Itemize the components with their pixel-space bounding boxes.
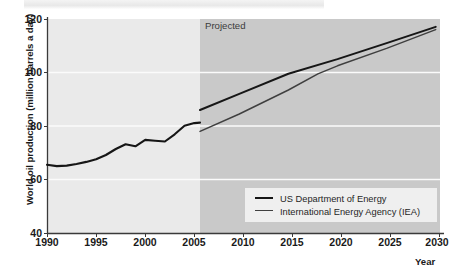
x-tick-2030: 2030 (417, 236, 455, 248)
legend-swatch-iea-icon (255, 210, 273, 211)
x-tickmark-2000 (145, 233, 146, 237)
legend-item-iea: International Energy Agency (IEA) (255, 206, 420, 217)
x-tick-2010: 2010 (223, 236, 263, 248)
y-tickmark-80 (44, 126, 48, 127)
y-tick-60: 60 (16, 174, 42, 184)
legend-label-iea: International Energy Agency (IEA) (280, 207, 420, 217)
x-tick-2015: 2015 (272, 236, 312, 248)
x-tick-2005: 2005 (174, 236, 214, 248)
x-tickmark-1990 (47, 233, 48, 237)
y-tickmark-60 (44, 179, 48, 180)
x-tickmark-1995 (96, 233, 97, 237)
y-tick-120: 120 (16, 14, 42, 24)
x-tick-2025: 2025 (370, 236, 410, 248)
y-tickmark-100 (44, 72, 48, 73)
legend-item-doe: US Department of Energy (255, 193, 386, 204)
plot-canvas (0, 0, 455, 272)
x-tick-1995: 1995 (76, 236, 116, 248)
legend: US Department of Energy International En… (245, 188, 437, 222)
x-tick-1990: 1990 (27, 236, 67, 248)
x-tickmark-2020 (341, 233, 342, 237)
x-tickmark-2025 (390, 233, 391, 237)
x-tickmark-2030 (439, 233, 440, 237)
oil-production-chart: World oil production (million barrels a … (0, 0, 455, 272)
projected-annotation: Projected (205, 20, 246, 31)
y-tick-100: 100 (16, 67, 42, 77)
x-tickmark-2005 (194, 233, 195, 237)
legend-swatch-doe-icon (255, 197, 273, 199)
y-tickmark-120 (44, 19, 48, 20)
x-tickmark-2015 (292, 233, 293, 237)
legend-label-doe: US Department of Energy (280, 194, 386, 204)
x-tickmark-2010 (243, 233, 244, 237)
x-tick-2000: 2000 (125, 236, 165, 248)
x-tick-2020: 2020 (321, 236, 361, 248)
y-tick-80: 80 (16, 121, 42, 131)
